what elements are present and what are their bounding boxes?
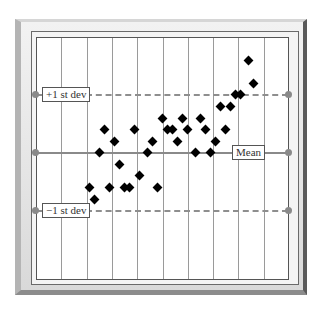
mean-label: Mean (232, 145, 265, 160)
plus-sd-left-endpoint-icon (32, 91, 39, 98)
plus-one-sd-label: +1 st dev (42, 87, 90, 102)
vertical-gridline (188, 38, 189, 279)
vertical-gridline (213, 38, 214, 279)
vertical-gridline (87, 38, 88, 279)
mean-right-endpoint-icon (285, 149, 292, 156)
minus-one-sd-label: −1 st dev (42, 203, 90, 218)
minus-sd-right-endpoint-icon (285, 207, 292, 214)
minus-sd-left-endpoint-icon (32, 207, 39, 214)
vertical-gridline (163, 38, 164, 279)
mean-left-endpoint-icon (32, 149, 39, 156)
plus-sd-right-endpoint-icon (285, 91, 292, 98)
vertical-gridline (137, 38, 138, 279)
vertical-gridline (61, 38, 62, 279)
vertical-gridline (112, 38, 113, 279)
